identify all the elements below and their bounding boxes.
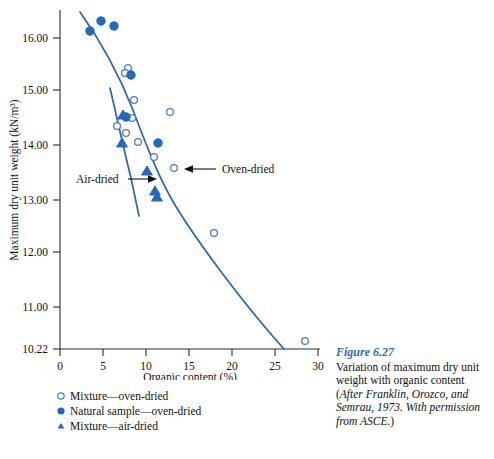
data-point-filled (86, 27, 94, 35)
annotation-air-dried-label: Air-dried (76, 173, 119, 185)
y-axis-ticks (53, 38, 60, 349)
data-point-open (167, 109, 174, 116)
data-point-triangle (142, 166, 153, 175)
y-axis-title: Maximum dry unit weight (kN/m³) (8, 99, 21, 260)
legend-item-natural-sample-oven-dried: Natural sample—oven-dried (52, 403, 302, 418)
arrowhead-icon (184, 165, 193, 173)
arrowhead-icon (148, 175, 157, 183)
y-tick-label: 11.00 (23, 301, 49, 313)
y-axis-tick-labels: 16.00 15.00 14.00 13.00 12.00 11.00 10.2… (22, 32, 48, 355)
y-tick-label: 12.00 (22, 246, 48, 258)
data-point-filled (127, 71, 135, 79)
filled-triangle-icon (52, 421, 70, 431)
legend-item-mixture-air-dried: Mixture—air-dried (52, 418, 302, 433)
figure-caption: Figure 6.27 Variation of maximum dry uni… (336, 345, 488, 428)
data-point-open (131, 97, 138, 104)
data-point-triangle (117, 138, 128, 147)
air-dried-trend-curve (110, 88, 139, 216)
series-natural-sample-oven-dried (86, 17, 162, 147)
caption-text-tail: ) (390, 415, 394, 427)
annotation-oven-dried-label: Oven-dried (222, 163, 275, 175)
y-tick-label: 10.22 (22, 343, 48, 355)
figure-caption-body: Variation of maximum dry unit weight wit… (336, 361, 488, 428)
x-tick-label: 5 (100, 360, 106, 372)
x-axis-ticks (60, 349, 318, 356)
y-tick-label: 16.00 (22, 32, 48, 44)
chart-legend: Mixture—oven-dried Natural sample—oven-d… (52, 388, 302, 433)
filled-circle-icon (52, 406, 70, 416)
legend-item-mixture-oven-dried: Mixture—oven-dried (52, 388, 302, 403)
data-point-open (211, 230, 218, 237)
legend-label: Natural sample—oven-dried (70, 405, 201, 417)
x-tick-label: 30 (312, 360, 324, 372)
legend-label: Mixture—air-dried (70, 420, 158, 432)
x-tick-label: 0 (57, 360, 63, 372)
chart-plot-area: 16.00 15.00 14.00 13.00 12.00 11.00 10.2… (0, 0, 330, 380)
data-point-open (171, 165, 178, 172)
y-tick-label: 14.00 (22, 139, 48, 151)
data-point-open (114, 123, 121, 130)
caption-source-citation: After Franklin, Orozco, and Semrau, 1973… (336, 388, 480, 427)
annotation-oven-dried: Oven-dried (184, 163, 275, 175)
y-tick-label: 15.00 (22, 84, 48, 96)
figure-6-27: 16.00 15.00 14.00 13.00 12.00 11.00 10.2… (0, 0, 494, 459)
scatter-chart: 16.00 15.00 14.00 13.00 12.00 11.00 10.2… (0, 0, 330, 380)
data-point-open (302, 338, 309, 345)
data-point-open (151, 154, 158, 161)
figure-caption-title: Figure 6.27 (336, 345, 488, 360)
x-tick-label: 25 (269, 360, 281, 372)
y-tick-label: 13.00 (22, 194, 48, 206)
data-point-filled (97, 17, 105, 25)
legend-label: Mixture—oven-dried (70, 390, 168, 402)
data-point-triangle (150, 186, 161, 195)
open-circle-icon (52, 391, 70, 401)
series-mixture-oven-dried (114, 65, 309, 345)
data-point-open (135, 139, 142, 146)
data-point-filled (154, 139, 162, 147)
x-axis-title: Organic content (%) (143, 371, 237, 380)
data-point-open (123, 130, 130, 137)
data-point-filled (110, 22, 118, 30)
